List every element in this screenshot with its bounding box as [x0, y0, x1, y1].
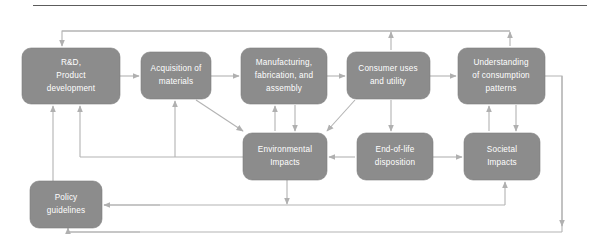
node-manufacturing-fabrication-assembly[interactable]: Manufacturing, fabrication, and assembly: [241, 48, 327, 104]
node-policy-guidelines[interactable]: Policy guidelines: [30, 181, 102, 228]
nodes-layer: R&D, Product development Acquisition of …: [22, 48, 545, 228]
node-manufacturing-line-2: fabrication, and: [255, 71, 314, 80]
edge-acquisition-to-environmental: [196, 100, 243, 131]
node-understanding-line-3: patterns: [486, 84, 517, 93]
node-manufacturing-line-1: Manufacturing,: [256, 58, 312, 67]
node-policy-line-1: Policy: [55, 193, 78, 202]
node-understanding-line-2: of consumption: [472, 71, 530, 80]
node-consumer-uses-and-utility[interactable]: Consumer uses and utility: [347, 52, 430, 99]
lifecycle-flow-diagram: R&D, Product development Acquisition of …: [0, 0, 596, 250]
node-understanding-line-1: Understanding: [473, 58, 529, 67]
node-acquisition-of-materials-line-1: Acquisition of: [151, 64, 202, 73]
node-acquisition-of-materials-line-2: materials: [159, 77, 194, 86]
edge-understanding-to-bottom-loop: [545, 76, 562, 226]
node-end-of-life-disposition-box[interactable]: [357, 133, 433, 180]
node-acquisition-of-materials[interactable]: Acquisition of materials: [141, 52, 211, 99]
edge-bottom-return-to-policy: [68, 228, 140, 232]
node-environmental-line-2: Impacts: [270, 158, 300, 167]
node-consumer-line-1: Consumer uses: [358, 64, 417, 73]
node-manufacturing-line-3: assembly: [266, 84, 303, 93]
node-rd-product-development[interactable]: R&D, Product development: [22, 48, 120, 104]
node-policy-guidelines-box[interactable]: [30, 181, 102, 228]
node-acquisition-of-materials-box[interactable]: [141, 52, 211, 99]
node-societal-impacts-box[interactable]: [464, 133, 540, 180]
node-end-of-life-disposition[interactable]: End-of-life disposition: [357, 133, 433, 180]
node-end-of-life-line-2: disposition: [375, 158, 416, 167]
node-consumer-uses-and-utility-box[interactable]: [347, 52, 430, 99]
node-end-of-life-line-1: End-of-life: [376, 145, 415, 154]
edge-top-feedback-to-rd: [62, 31, 510, 46]
node-environmental-impacts[interactable]: Environmental Impacts: [243, 133, 327, 180]
node-societal-impacts[interactable]: Societal Impacts: [464, 133, 540, 180]
edge-consumer-to-environmental: [327, 100, 355, 131]
node-environmental-impacts-box[interactable]: [243, 133, 327, 180]
node-rd-product-development-line-3: development: [47, 84, 96, 93]
node-rd-product-development-line-2: Product: [56, 71, 86, 80]
node-consumer-line-2: and utility: [370, 77, 407, 86]
node-societal-line-1: Societal: [487, 145, 517, 154]
node-rd-product-development-line-1: R&D,: [61, 58, 81, 67]
node-understanding-of-consumption-patterns[interactable]: Understanding of consumption patterns: [458, 48, 545, 104]
node-environmental-line-1: Environmental: [258, 145, 312, 154]
node-societal-line-2: Impacts: [487, 158, 517, 167]
node-policy-line-2: guidelines: [47, 206, 85, 215]
